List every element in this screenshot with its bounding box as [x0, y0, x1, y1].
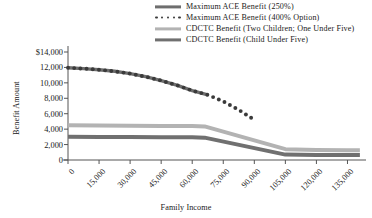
benefit-amount-line-chart: Maximum ACE Benefit (250%) Maximum ACE B…	[0, 0, 372, 218]
x-axis-tick-labels: 015,00030,00045,00060,00075,00090,000105…	[0, 0, 372, 218]
